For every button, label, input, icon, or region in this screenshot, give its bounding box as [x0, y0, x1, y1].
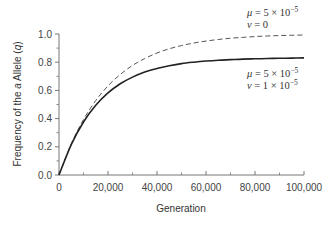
- annotation-nu-zero: μ = 5 × 10−5 ν = 0: [246, 5, 299, 30]
- y-ticks: 0.00.20.40.60.81.0: [38, 29, 59, 181]
- x-tick-label: 80,000: [240, 182, 271, 193]
- y-tick-label: 0.6: [38, 85, 52, 96]
- svg-text:μ = 5 × 10−5: μ = 5 × 10−5: [246, 5, 299, 18]
- axes: 0.00.20.40.60.81.0 020,00040,00060,00080…: [38, 29, 322, 194]
- svg-text:ν = 0: ν = 0: [247, 19, 268, 30]
- y-tick-label: 0.0: [38, 170, 52, 181]
- svg-text:ν = 1 × 10−5: ν = 1 × 10−5: [247, 78, 298, 91]
- y-tick-label: 1.0: [38, 29, 52, 40]
- x-axis-title: Generation: [156, 203, 205, 214]
- y-tick-label: 0.8: [38, 57, 52, 68]
- x-tick-label: 20,000: [93, 182, 124, 193]
- allele-frequency-chart: 0.00.20.40.60.81.0 020,00040,00060,00080…: [0, 0, 334, 225]
- annotation-nu-nonzero: μ = 5 × 10−5 ν = 1 × 10−5: [246, 66, 299, 91]
- y-tick-label: 0.4: [38, 113, 52, 124]
- x-tick-label: 0: [56, 182, 62, 193]
- x-tick-label: 60,000: [191, 182, 222, 193]
- y-axis-title: Frequency of the a Allele (q): [12, 41, 23, 166]
- y-tick-label: 0.2: [38, 141, 52, 152]
- x-tick-label: 40,000: [142, 182, 173, 193]
- x-ticks: 020,00040,00060,00080,000100,000: [56, 171, 322, 193]
- x-tick-label: 100,000: [286, 182, 323, 193]
- series-layer: [59, 35, 304, 175]
